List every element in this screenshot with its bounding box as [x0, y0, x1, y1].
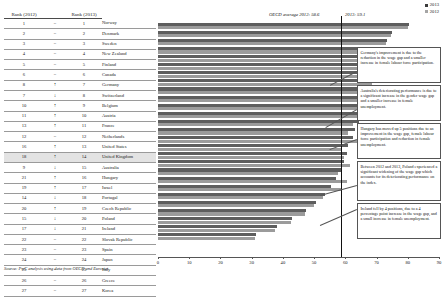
table-row: 5=5Finland [4, 60, 156, 70]
cell-rank-2012: 21 [4, 173, 44, 183]
cell-rank-2013: 2 [66, 29, 102, 39]
rank-change-icon: ↑ [44, 101, 66, 111]
cell-country: Spain [102, 245, 156, 255]
x-tick-label: 50 [312, 260, 317, 265]
cell-rank-2012: 4 [4, 49, 44, 59]
cell-rank-2013: 11 [66, 121, 102, 131]
cell-rank-2013: 18 [66, 193, 102, 203]
ireland-note: Ireland fell by 4 positions, due to a 4 … [357, 203, 441, 239]
table-row: 12=12Netherlands [4, 132, 156, 142]
rank-change-icon: ↑ [44, 142, 66, 152]
bar-2012 [158, 50, 381, 53]
table-row: 7↓8Switzerland [4, 90, 156, 100]
cell-rank-2013: 17 [66, 183, 102, 193]
cell-country: United Kingdom [102, 152, 156, 162]
x-tick-label: 40 [281, 260, 286, 265]
cell-country: New Zealand [102, 49, 156, 59]
bar-2012 [158, 180, 347, 183]
cell-country: Slovak Republic [102, 234, 156, 244]
cell-country: Norway [102, 19, 156, 29]
table-row: 26=26Greece [4, 276, 156, 286]
bar-2012 [158, 91, 366, 94]
cell-country: Belgium [102, 101, 156, 111]
cell-country: Switzerland [102, 90, 156, 100]
bar-2012 [158, 26, 408, 29]
cell-country: Hungary [102, 173, 156, 183]
rank-change-icon: ↓ [44, 90, 66, 100]
rank-change-icon: ↑ [44, 121, 66, 131]
cell-rank-2013: 26 [66, 276, 102, 286]
cell-rank-2013: 4 [66, 49, 102, 59]
cell-country: Czech Republic [102, 204, 156, 214]
cell-rank-2012: 8 [4, 80, 44, 90]
bar-group [158, 38, 439, 46]
table-row: 16↑13United States [4, 142, 156, 152]
cell-rank-2012: 9 [4, 162, 44, 172]
cell-rank-2012: 26 [4, 276, 44, 286]
cell-rank-2012: 5 [4, 60, 44, 70]
table-row: 22=22Slovak Republic [4, 234, 156, 244]
table-row: 14↓18Portugal [4, 193, 156, 203]
bar-2012 [158, 83, 372, 86]
rank-change-icon: ↑ [44, 152, 66, 162]
rank-change-icon: ↓ [44, 224, 66, 234]
cell-rank-2012: 7 [4, 90, 44, 100]
cell-rank-2013: 9 [66, 101, 102, 111]
cell-rank-2013: 19 [66, 204, 102, 214]
rank-change-icon: ↓ [44, 193, 66, 203]
rank-change-icon: = [44, 276, 66, 286]
cell-rank-2012: 15 [4, 214, 44, 224]
cell-country: Germany [102, 80, 156, 90]
cell-country: Sweden [102, 39, 156, 49]
bar-2012 [158, 148, 341, 151]
rank-change-icon: = [44, 60, 66, 70]
cell-rank-2012: 20 [4, 204, 44, 214]
table-row: 19↑17Israel [4, 183, 156, 193]
cell-country: Ireland [102, 224, 156, 234]
cell-rank-2012: 3 [4, 39, 44, 49]
bar-2012 [158, 131, 348, 134]
bar-2012 [158, 221, 291, 224]
cell-rank-2012: 19 [4, 183, 44, 193]
cell-rank-2012: 17 [4, 224, 44, 234]
bar-group [158, 22, 439, 30]
bar-2012 [158, 229, 275, 232]
cell-rank-2013: 15 [66, 162, 102, 172]
x-tick-label: 20 [218, 260, 223, 265]
cell-rank-2012: 18 [4, 152, 44, 162]
table-row: 6=6Canada [4, 70, 156, 80]
cell-rank-2012: 1 [4, 19, 44, 29]
cell-country: Austria [102, 111, 156, 121]
cell-rank-2012: 12 [4, 132, 44, 142]
table-row: 24=24Japan [4, 255, 156, 265]
cell-rank-2013: 16 [66, 173, 102, 183]
rank-change-icon: ↑ [44, 183, 66, 193]
cell-rank-2012: 10 [4, 101, 44, 111]
bar-2012 [158, 196, 323, 199]
table-row: 8↑7Germany [4, 80, 156, 90]
table-row: 10↑9Belgium [4, 101, 156, 111]
bar-2012 [158, 164, 350, 167]
rank-change-icon: ↑ [44, 111, 66, 121]
oecd-average-line [341, 16, 342, 257]
table-row: 2=2Denmark [4, 29, 156, 39]
bar-group [158, 30, 439, 38]
cell-country: Poland [102, 214, 156, 224]
table-row: 3=3Sweden [4, 39, 156, 49]
table-row: 23=23Spain [4, 245, 156, 255]
cell-rank-2013: 22 [66, 234, 102, 244]
cell-country: Greece [102, 276, 156, 286]
bar-2012 [158, 172, 338, 175]
rank-change-icon: ↑ [44, 173, 66, 183]
x-tick-label: 80 [405, 260, 410, 265]
table-row: 20↑19Czech Republic [4, 204, 156, 214]
table-row: 21↑16Hungary [4, 173, 156, 183]
bar-2012 [158, 42, 386, 45]
cell-country: Australia [102, 162, 156, 172]
bar-2012 [158, 67, 377, 70]
rank-change-icon: ↓ [44, 162, 66, 172]
cell-country: France [102, 121, 156, 131]
cell-rank-2013: 21 [66, 224, 102, 234]
bar-2012 [158, 34, 391, 37]
cell-rank-2012: 2 [4, 29, 44, 39]
